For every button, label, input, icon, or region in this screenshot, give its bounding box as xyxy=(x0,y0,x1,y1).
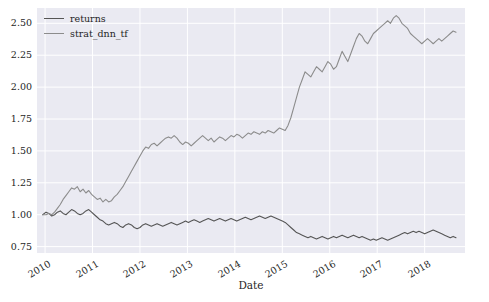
y-tick-label: 2.25 xyxy=(0,49,32,60)
y-tick-label: 2.50 xyxy=(0,17,32,28)
y-tick-label: 2.00 xyxy=(0,81,32,92)
series-line-strat-dnn-tf xyxy=(43,16,456,215)
y-tick-label: 1.50 xyxy=(0,145,32,156)
legend-color-swatch-returns xyxy=(44,18,64,19)
y-tick-label: 1.00 xyxy=(0,209,32,220)
series-lines xyxy=(43,16,456,241)
gridlines xyxy=(37,8,465,253)
legend-color-swatch-strat-dnn-tf xyxy=(44,33,64,34)
legend-label-returns: returns xyxy=(70,12,106,25)
chart-legend: returns strat_dnn_tf xyxy=(44,12,128,40)
legend-label-strat-dnn-tf: strat_dnn_tf xyxy=(70,27,128,40)
series-line-returns xyxy=(43,210,456,241)
chart-figure: 0.751.001.251.501.752.002.252.50 2010201… xyxy=(0,0,489,302)
legend-item-strat-dnn-tf[interactable]: strat_dnn_tf xyxy=(44,27,128,40)
y-tick-label: 1.75 xyxy=(0,113,32,124)
y-tick-label: 0.75 xyxy=(0,241,32,252)
chart-canvas xyxy=(0,0,489,302)
x-axis-title: Date xyxy=(37,279,465,291)
y-tick-label: 1.25 xyxy=(0,177,32,188)
legend-item-returns[interactable]: returns xyxy=(44,12,128,25)
